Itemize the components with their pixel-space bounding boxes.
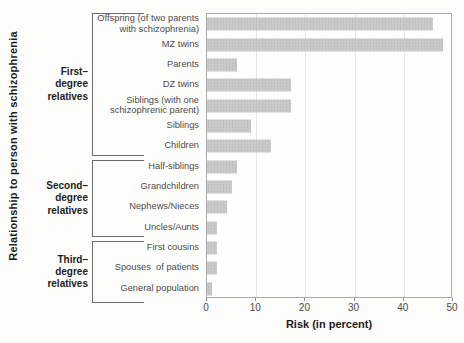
x-tick-label: 10 [250, 302, 261, 313]
bar-row [207, 258, 451, 278]
x-tick-mark [403, 298, 404, 301]
bar-11 [207, 221, 217, 234]
bar-14 [207, 282, 212, 295]
bar-row [207, 238, 451, 258]
x-tick-label: 0 [203, 302, 209, 313]
category-label: Grandchildren [141, 181, 199, 191]
x-axis-ticks: 01020304050 [206, 298, 452, 314]
bracket-1 [92, 13, 144, 156]
bar-row [207, 95, 451, 115]
x-tick-mark [354, 298, 355, 301]
category-label: Parents [167, 59, 199, 69]
bar-row [207, 279, 451, 299]
bar-10 [207, 201, 227, 214]
group-label-1: First– degree relatives [47, 66, 88, 103]
bar-2 [207, 38, 443, 51]
bar-row [207, 75, 451, 95]
category-label: MZ twins [162, 38, 199, 48]
x-tick-mark [255, 298, 256, 301]
bracket-2 [92, 160, 144, 237]
category-label: Children [164, 140, 199, 150]
bracket-3 [92, 241, 144, 303]
bar-7 [207, 140, 271, 153]
bar-9 [207, 181, 232, 194]
category-label: Half-siblings [148, 160, 199, 170]
category-label: Uncles/Aunts [144, 222, 199, 232]
schizophrenia-risk-chart: Relationship to person with schizophreni… [0, 0, 464, 343]
x-tick-mark [206, 298, 207, 301]
bar-row [207, 157, 451, 177]
bar-3 [207, 58, 237, 71]
group-label-2: Second– degree relatives [46, 180, 88, 217]
bar-13 [207, 262, 217, 275]
bar-1 [207, 18, 433, 31]
x-tick-mark [452, 298, 453, 301]
x-tick-label: 40 [397, 302, 408, 313]
bar-row [207, 14, 451, 34]
bar-row [207, 34, 451, 54]
bar-4 [207, 79, 291, 92]
bar-row [207, 177, 451, 197]
x-axis-title: Risk (in percent) [206, 318, 452, 330]
x-tick-mark [304, 298, 305, 301]
category-label: Siblings [166, 120, 199, 130]
group-label-3: Third– degree relatives [47, 254, 88, 291]
bar-row [207, 218, 451, 238]
bar-row [207, 197, 451, 217]
x-tick-label: 30 [348, 302, 359, 313]
plot-area [206, 13, 452, 298]
bar-5 [207, 99, 291, 112]
bar-row [207, 116, 451, 136]
bar-12 [207, 242, 217, 255]
category-label: DZ twins [163, 79, 199, 89]
x-tick-label: 50 [446, 302, 457, 313]
bar-row [207, 55, 451, 75]
bar-8 [207, 160, 237, 173]
bar-6 [207, 119, 251, 132]
category-label: First cousins [147, 242, 199, 252]
bar-row [207, 136, 451, 156]
x-tick-label: 20 [299, 302, 310, 313]
